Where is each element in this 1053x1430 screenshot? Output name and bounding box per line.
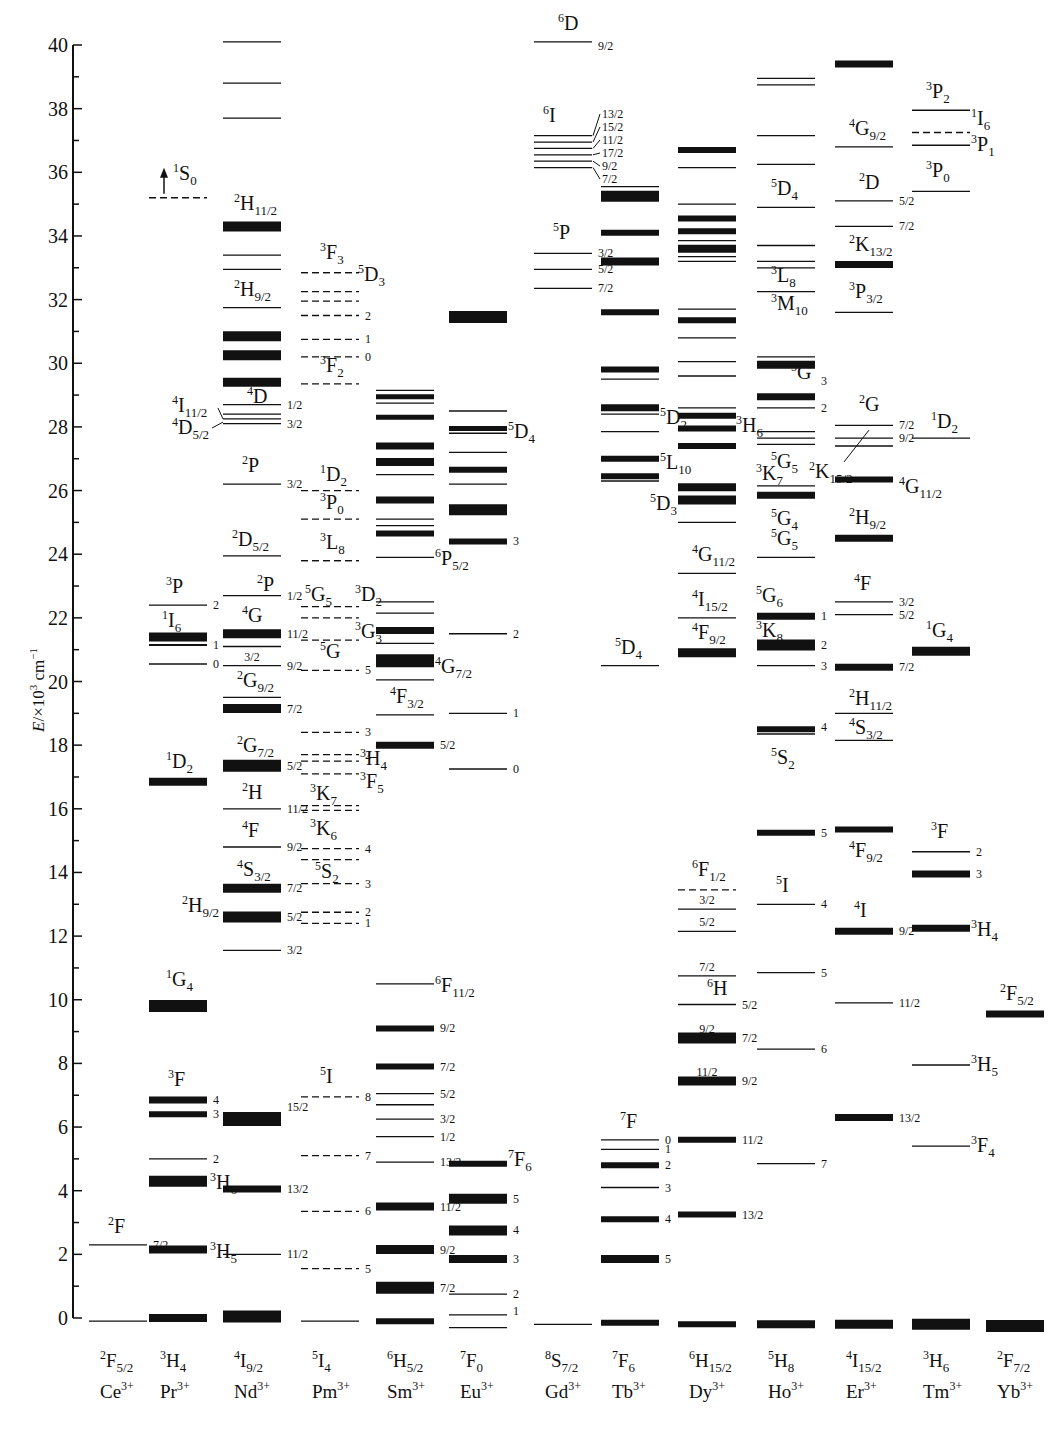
- term-label: 3H6: [736, 413, 763, 440]
- ion-label: Er3+: [846, 1379, 877, 1402]
- j-label: 7: [821, 1157, 827, 1171]
- term-label: 5D3: [650, 491, 677, 518]
- term-label: 5S2: [315, 859, 339, 886]
- term-label: 4G: [242, 603, 262, 626]
- j-label: 5/2: [899, 608, 914, 622]
- ion-label: Sm3+: [387, 1379, 425, 1402]
- tick-label: 38: [48, 98, 68, 120]
- term-label: 4F: [854, 571, 871, 594]
- term-label: 5G6: [756, 583, 783, 610]
- j-label: 5/2: [287, 759, 302, 773]
- j-label: 1: [821, 609, 827, 623]
- term-label: 3L8: [320, 530, 345, 557]
- j-label: 7: [365, 1149, 371, 1163]
- j-label: 7/2: [598, 281, 613, 295]
- ground-state-label: 5I4: [312, 1348, 331, 1375]
- term-label: 5D4: [508, 419, 535, 446]
- ion-column-tb: 5432107F5D45D35L105D2: [601, 187, 691, 1323]
- j-label: 1/2: [287, 398, 302, 412]
- term-label: 5G: [320, 639, 340, 662]
- energy-levels: 7/22F3H53H62343F1G41D2011I623P1S011/213/…: [89, 11, 1044, 1328]
- term-label: 5I: [320, 1064, 333, 1087]
- j-label: 3: [513, 1252, 519, 1266]
- leader-line: [212, 422, 223, 428]
- j-label: 4: [365, 842, 371, 856]
- leader-line: [593, 153, 600, 155]
- j-label: 2: [976, 845, 982, 859]
- ion-column-yb: 2F5/2: [986, 981, 1044, 1326]
- j-label: 5: [365, 663, 371, 677]
- j-label: 11/2: [742, 1133, 763, 1147]
- term-label: 6F1/2: [692, 857, 726, 884]
- ion-labels: 2F5/2Ce3+3H4Pr3+4I9/2Nd3+5I4Pm3+6H5/2Sm3…: [100, 1348, 1033, 1402]
- j-label: 3/2: [244, 650, 259, 664]
- j-label: 13/2: [899, 1111, 920, 1125]
- term-label: 1D2: [166, 749, 193, 776]
- j-label: 5: [513, 1192, 519, 1206]
- term-label: 2G7/2: [237, 733, 274, 760]
- j-label: 2: [213, 1152, 219, 1166]
- j-label: 7/2: [699, 960, 714, 974]
- term-label: 4G11/2: [692, 542, 735, 569]
- j-label: 5: [365, 1262, 371, 1276]
- leader-line: [593, 114, 600, 136]
- ion-column-gd: 7/25/23/25P6I9/26D: [534, 11, 613, 1325]
- j-label: 7/2: [440, 1281, 455, 1295]
- ground-state-label: 2F5/2: [100, 1348, 133, 1375]
- ground-state-label: 7F0: [460, 1348, 483, 1375]
- j-label: 9/2: [440, 1021, 455, 1035]
- j-label: 9/2: [699, 1022, 714, 1036]
- ground-state-label: 6H5/2: [387, 1348, 423, 1375]
- j-label: 4: [665, 1212, 671, 1226]
- ion-column-ce: 7/22F: [89, 1214, 168, 1321]
- term-label: 4D: [247, 384, 267, 407]
- ground-state-label: 8S7/2: [545, 1348, 578, 1375]
- j-label: 1: [213, 638, 219, 652]
- j-label: 1: [513, 706, 519, 720]
- term-label: 6P5/2: [435, 546, 469, 573]
- term-label: 3F: [168, 1067, 185, 1090]
- j-label: 7/2: [742, 1031, 757, 1045]
- term-label: 2F: [108, 1214, 125, 1237]
- term-label: 5D4: [771, 176, 798, 203]
- term-label: 2P: [242, 453, 259, 476]
- ion-label: Tb3+: [612, 1379, 646, 1402]
- ground-state-label: 4I15/2: [846, 1348, 881, 1375]
- j-label: 1/2: [287, 589, 302, 603]
- ion-column-nd: 11/213/215/23/25/22H9/27/24S3/29/24F11/2…: [182, 42, 308, 1317]
- j-label: 2: [665, 1158, 671, 1172]
- term-label: 1S0: [173, 161, 197, 188]
- j-label: 17/2: [602, 146, 623, 160]
- tick-label: 28: [48, 416, 68, 438]
- j-label: 9/2: [440, 1243, 455, 1257]
- term-label: 2P: [257, 572, 274, 595]
- j-label: 3: [365, 725, 371, 739]
- term-label: 6H: [707, 976, 727, 999]
- term-label: 5G5: [305, 582, 332, 609]
- j-label: 7/2: [287, 702, 302, 716]
- term-label: 2D: [859, 170, 879, 193]
- ground-state-label: 2F7/2: [997, 1348, 1030, 1375]
- j-label: 11/2: [602, 133, 623, 147]
- j-label: 3/2: [440, 1112, 455, 1126]
- term-label: 3P0: [926, 158, 950, 185]
- term-label: 3H5: [971, 1052, 998, 1079]
- term-label: 1I6: [162, 608, 182, 635]
- ion-label: Tm3+: [923, 1379, 962, 1402]
- ion-column-dy: 13/211/29/211/27/29/25/26H7/25/23/26F1/2…: [678, 150, 763, 1324]
- term-label: 2H11/2: [849, 686, 892, 713]
- term-label: 4G11/2: [899, 474, 942, 501]
- term-label: 3H5: [210, 1239, 237, 1266]
- leader-line: [593, 168, 600, 179]
- j-label: 11/2: [287, 802, 308, 816]
- term-label: 5S2: [771, 745, 795, 772]
- leader-line: [593, 161, 600, 166]
- ion-label: Ce3+: [100, 1379, 134, 1402]
- term-label: 3H6: [210, 1170, 237, 1197]
- term-label: 1G4: [926, 618, 953, 645]
- j-label: 5/2: [699, 915, 714, 929]
- tick-label: 34: [48, 225, 68, 247]
- tick-label: 14: [48, 861, 68, 883]
- j-label: 13/2: [602, 107, 623, 121]
- term-label: 4I15/2: [692, 587, 728, 614]
